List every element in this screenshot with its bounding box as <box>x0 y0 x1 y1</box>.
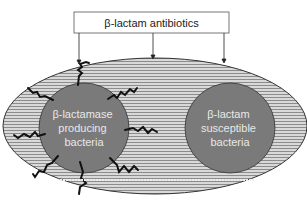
antibiotics-label: β-lactam antibiotics <box>104 17 199 29</box>
diagram-canvas: β-lactam antibiotics β-lactamase produci… <box>0 0 307 203</box>
